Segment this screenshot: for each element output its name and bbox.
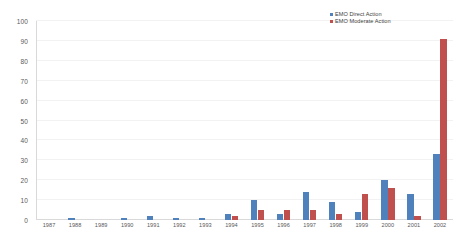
bar-direct-action bbox=[68, 218, 74, 220]
bar-direct-action bbox=[407, 194, 413, 220]
y-axis-tick-label: 50 bbox=[21, 117, 28, 124]
x-axis-tick-label: 1991 bbox=[147, 222, 160, 228]
bar-chart: 0102030405060708090100 19871988198919901… bbox=[0, 0, 459, 241]
bar-group bbox=[401, 21, 427, 220]
x-axis-tick-label: 2001 bbox=[408, 222, 421, 228]
bar-group bbox=[114, 21, 140, 220]
y-axis-tick-label: 0 bbox=[24, 217, 28, 224]
legend-item: EMO Direct Action bbox=[330, 11, 391, 17]
bar-moderate-action bbox=[362, 194, 368, 220]
bar-direct-action bbox=[277, 214, 283, 220]
y-axis-tick-label: 30 bbox=[21, 157, 28, 164]
bar-group bbox=[166, 21, 192, 220]
y-axis: 0102030405060708090100 bbox=[0, 21, 32, 220]
x-axis-tick-label: 2000 bbox=[382, 222, 395, 228]
bar-direct-action bbox=[251, 200, 257, 220]
bar-direct-action bbox=[355, 212, 361, 220]
bar-group bbox=[88, 21, 114, 220]
bar-direct-action bbox=[173, 218, 179, 220]
y-axis-tick-label: 90 bbox=[21, 37, 28, 44]
x-axis-tick-label: 1995 bbox=[251, 222, 264, 228]
bar-moderate-action bbox=[388, 188, 394, 220]
bar-moderate-action bbox=[440, 39, 446, 220]
bar-group bbox=[192, 21, 218, 220]
bar-direct-action bbox=[381, 180, 387, 220]
bar-group bbox=[218, 21, 244, 220]
x-axis-tick-label: 1989 bbox=[95, 222, 108, 228]
y-axis-tick-label: 70 bbox=[21, 77, 28, 84]
x-axis-tick-label: 1997 bbox=[303, 222, 316, 228]
bar-direct-action bbox=[199, 218, 205, 220]
bar-direct-action bbox=[121, 218, 127, 220]
legend-swatch-icon bbox=[330, 13, 333, 16]
x-axis-tick-label: 1987 bbox=[43, 222, 56, 228]
x-axis-tick-label: 1993 bbox=[199, 222, 212, 228]
x-axis: 1987198819891990199119921993199419951996… bbox=[36, 222, 453, 236]
bar-group bbox=[62, 21, 88, 220]
x-axis-tick-label: 1994 bbox=[225, 222, 238, 228]
chart-legend: EMO Direct ActionEMO Moderate Action bbox=[330, 11, 391, 24]
y-axis-tick-label: 10 bbox=[21, 197, 28, 204]
bar-moderate-action bbox=[232, 216, 238, 220]
bar-direct-action bbox=[225, 214, 231, 220]
bar-moderate-action bbox=[258, 210, 264, 220]
bar-moderate-action bbox=[336, 214, 342, 220]
bar-group bbox=[140, 21, 166, 220]
legend-label: EMO Moderate Action bbox=[335, 18, 391, 24]
x-axis-tick-label: 1998 bbox=[329, 222, 342, 228]
bar-group bbox=[271, 21, 297, 220]
plot-area bbox=[36, 21, 453, 220]
legend-label: EMO Direct Action bbox=[335, 11, 382, 17]
bar-group bbox=[349, 21, 375, 220]
y-axis-tick-label: 60 bbox=[21, 97, 28, 104]
bar-direct-action bbox=[147, 216, 153, 220]
x-axis-tick-label: 2002 bbox=[434, 222, 447, 228]
bar-group bbox=[427, 21, 453, 220]
y-axis-tick-label: 80 bbox=[21, 57, 28, 64]
bar-group bbox=[36, 21, 62, 220]
legend-item: EMO Moderate Action bbox=[330, 18, 391, 24]
bar-group bbox=[245, 21, 271, 220]
x-axis-tick-label: 1992 bbox=[173, 222, 186, 228]
bar-direct-action bbox=[329, 202, 335, 220]
x-axis-tick-label: 1996 bbox=[277, 222, 290, 228]
bar-direct-action bbox=[303, 192, 309, 220]
y-axis-tick-label: 20 bbox=[21, 177, 28, 184]
bar-group bbox=[297, 21, 323, 220]
x-axis-tick-label: 1999 bbox=[355, 222, 368, 228]
bar-moderate-action bbox=[284, 210, 290, 220]
bar-moderate-action bbox=[310, 210, 316, 220]
x-axis-tick-label: 1988 bbox=[69, 222, 82, 228]
legend-swatch-icon bbox=[330, 20, 333, 23]
bar-moderate-action bbox=[414, 216, 420, 220]
bar-direct-action bbox=[433, 154, 439, 220]
bar-group bbox=[323, 21, 349, 220]
x-axis-tick-label: 1990 bbox=[121, 222, 134, 228]
bar-group bbox=[375, 21, 401, 220]
y-axis-tick-label: 40 bbox=[21, 137, 28, 144]
y-axis-tick-label: 100 bbox=[17, 18, 28, 25]
